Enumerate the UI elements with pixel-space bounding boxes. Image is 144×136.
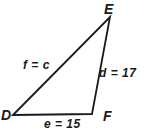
side-label-df: e = 15 bbox=[44, 118, 81, 130]
vertex-label-f: F bbox=[103, 109, 112, 123]
vertex-label-e: E bbox=[104, 2, 113, 16]
side-label-ef: d = 17 bbox=[99, 67, 136, 79]
triangle-figure: E D F f = c d = 17 e = 15 bbox=[0, 0, 144, 136]
vertex-label-d: D bbox=[1, 108, 11, 122]
side-label-de: f = c bbox=[23, 59, 50, 71]
